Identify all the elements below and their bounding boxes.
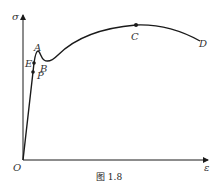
origin-label: O [13,162,21,173]
point-p-label: P [36,70,44,81]
point-e-label: E [24,58,33,69]
point-a-label: A [33,42,41,53]
point-c-label: C [131,31,139,42]
y-axis-label: σ [12,11,20,22]
point-c-marker [134,23,138,27]
x-axis-label: ε [204,162,209,173]
figure-caption: 图 1.8 [96,172,122,182]
point-p-marker [31,70,35,74]
point-d-label: D [198,38,207,49]
point-e-marker [32,61,36,65]
stress-strain-diagram: σ ε O A B E P C D 图 1.8 [0,0,219,189]
stress-strain-curve [23,25,200,160]
